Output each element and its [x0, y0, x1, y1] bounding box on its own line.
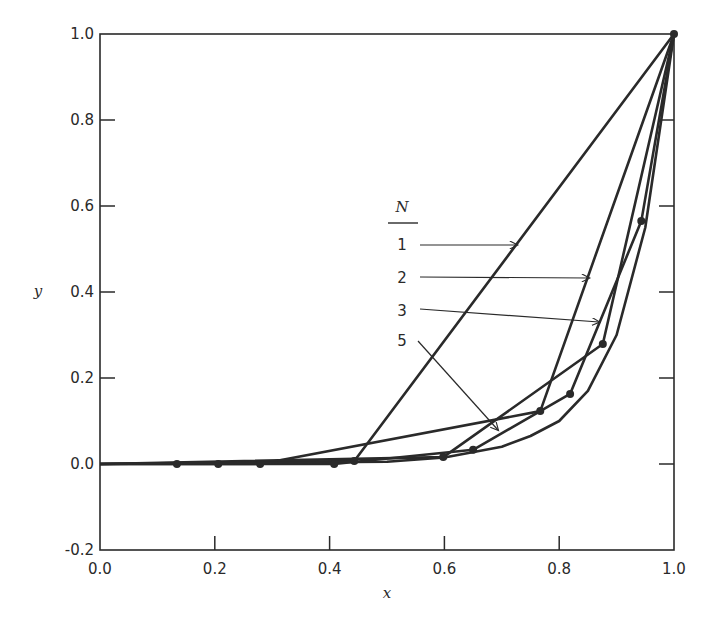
x-tick-label: 0.0 — [88, 560, 112, 578]
node-marker — [637, 217, 645, 225]
legend-label-n-5: 5 — [397, 332, 407, 350]
curve-n-exact — [100, 34, 674, 464]
legend-arrow-n-3 — [420, 309, 599, 322]
node-marker — [330, 460, 338, 468]
x-tick-label: 1.0 — [662, 560, 686, 578]
node-marker — [439, 453, 447, 461]
curve-n-3 — [100, 34, 674, 464]
node-marker — [566, 390, 574, 398]
y-tick-label: 1.0 — [70, 25, 94, 43]
legend-label-n-3: 3 — [397, 302, 407, 320]
curve-n-1 — [100, 34, 674, 464]
node-marker — [599, 340, 607, 348]
plot-frame — [100, 34, 674, 550]
legend-title: N — [394, 198, 409, 216]
curve-n-2 — [100, 34, 674, 464]
node-marker — [256, 460, 264, 468]
legend-arrow-n-5 — [418, 341, 498, 430]
x-tick-label: 0.2 — [203, 560, 227, 578]
node-marker — [173, 460, 181, 468]
legend-label-n-2: 2 — [397, 269, 407, 287]
y-tick-label: 0.2 — [70, 369, 94, 387]
x-tick-label: 0.8 — [547, 560, 571, 578]
chart: N1235 0.00.20.40.60.81.0-0.20.00.20.40.6… — [0, 0, 722, 629]
legend-arrow-n-2 — [420, 277, 589, 278]
y-tick-label: 0.4 — [70, 283, 94, 301]
data-markers — [173, 30, 678, 468]
legend-label-n-1: 1 — [397, 236, 407, 254]
y-axis-label: y — [33, 282, 43, 300]
x-tick-label: 0.4 — [318, 560, 342, 578]
y-tick-label: 0.8 — [70, 111, 94, 129]
y-tick-label: -0.2 — [65, 541, 94, 559]
curve-n-5 — [100, 34, 674, 464]
tick-labels: 0.00.20.40.60.81.0-0.20.00.20.40.60.81.0 — [65, 25, 686, 578]
curves — [100, 34, 674, 464]
node-marker — [350, 457, 358, 465]
node-marker — [536, 407, 544, 415]
node-marker — [469, 446, 477, 454]
y-tick-label: 0.6 — [70, 197, 94, 215]
node-marker — [214, 460, 222, 468]
axis-ticks — [100, 120, 674, 550]
x-axis-label: x — [383, 584, 392, 602]
y-tick-label: 0.0 — [70, 455, 94, 473]
x-tick-label: 0.6 — [432, 560, 456, 578]
